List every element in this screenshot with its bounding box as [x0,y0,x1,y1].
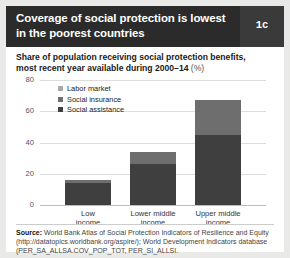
bar-segment [130,152,176,165]
legend-swatch-icon [58,97,63,102]
bar-segment [195,135,241,205]
legend-swatch-icon [58,86,63,91]
y-axis-tick-label: 60 [8,106,34,115]
source-note: Source: World Bank Atlas of Social Prote… [16,228,278,256]
x-axis-label-line: income [170,218,266,227]
legend-swatch-icon [58,107,63,112]
axis-baseline [40,205,266,206]
bar-column [195,100,241,205]
legend-item-label: Social insurance [67,95,121,104]
chart-plot: 020406080 LowincomeLower middleincomeUpp… [6,6,284,252]
legend-item-label: Social assistance [67,105,124,114]
source-body-text: World Bank Atlas of Social Protection In… [16,229,269,254]
bar-segment [65,183,111,205]
source-prefix-label: Source: [16,229,42,236]
x-axis-label-line: Upper middle [170,209,266,218]
bar-segment [130,164,176,205]
figure-card: Coverage of social protection is lowest … [6,6,284,252]
bar-segment [195,100,241,134]
bar-column [130,152,176,205]
y-axis-tick-label: 20 [8,169,34,178]
source-divider [16,224,274,225]
y-axis-tick-label: 40 [8,138,34,147]
legend-item-label: Labor market [67,84,111,93]
bar-segment [65,180,111,183]
gridline [40,80,266,81]
bar-column [65,180,111,205]
y-axis-tick-label: 80 [8,75,34,84]
y-axis-tick-label: 0 [8,200,34,209]
